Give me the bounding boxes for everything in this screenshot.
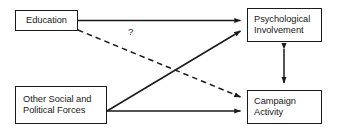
node-education[interactable]: Education (15, 10, 78, 31)
node-campaign-activity[interactable]: Campaign Activity (247, 90, 322, 124)
path-diagram: Education Other Social and Political For… (0, 0, 345, 130)
node-other-forces[interactable]: Other Social and Political Forces (15, 86, 107, 124)
node-other-forces-label-line-2: Political Forces (23, 105, 85, 116)
edge-label-question-mark: ? (128, 27, 133, 37)
node-campaign-activity-label-line-2: Activity (254, 107, 283, 118)
node-education-label-line-1: Education (26, 15, 67, 26)
node-campaign-activity-label-line-1: Campaign (254, 96, 296, 107)
node-other-forces-label-line-1: Other Social and (23, 94, 91, 105)
node-psychological-involvement[interactable]: Psychological Involvement (247, 8, 322, 42)
edge-other-forces-to-psychological-involvement (107, 31, 241, 111)
node-psychological-involvement-label-line-1: Psychological (254, 14, 310, 25)
node-psychological-involvement-label-line-2: Involvement (254, 25, 304, 36)
